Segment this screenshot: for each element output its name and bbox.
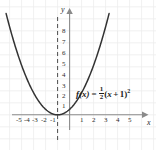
y-tick-label-6: 6 <box>62 50 66 57</box>
y-tick-label-4: 4 <box>62 72 66 79</box>
y-tick-label-2: 2 <box>62 93 66 100</box>
x-axis-label: x <box>147 119 151 127</box>
y-tick-label-8: 8 <box>62 28 66 35</box>
parabola-figure: 8 7 6 5 4 3 2 1 -5 -4 -3 -2 -1 1 2 3 4 5… <box>0 0 156 150</box>
y-axis-label: y <box>61 6 65 14</box>
equation-annotation: f(x)=12(x+1)2 <box>76 86 130 101</box>
x-tick-label-1: 1 <box>80 117 84 124</box>
grid-lines <box>0 0 156 150</box>
equation-equals: = <box>92 89 97 99</box>
equation-variable: x <box>107 89 112 99</box>
x-tick-label-3: 3 <box>104 117 108 124</box>
graph-canvas <box>0 0 156 150</box>
y-tick-label-5: 5 <box>62 61 66 68</box>
x-tick-label-minus-4: -4 <box>24 117 30 124</box>
x-tick-label-minus-2: -2 <box>41 117 47 124</box>
x-tick-label-5: 5 <box>128 117 132 124</box>
equation-lhs: f(x) <box>76 89 90 99</box>
x-tick-label-minus-5: -5 <box>16 117 22 124</box>
y-axis-arrowhead <box>66 8 72 14</box>
y-tick-label-1: 1 <box>62 103 66 110</box>
x-tick-label-4: 4 <box>116 117 120 124</box>
x-tick-label-2: 2 <box>92 117 96 124</box>
fraction-denominator: 2 <box>99 94 104 101</box>
x-tick-label-minus-3: -3 <box>32 117 38 124</box>
equation-fraction-one-half: 12 <box>99 86 104 101</box>
y-tick-label-7: 7 <box>62 39 66 46</box>
x-tick-label-minus-1: -1 <box>50 117 56 124</box>
y-tick-label-3: 3 <box>62 83 66 90</box>
equation-exponent: 2 <box>127 88 130 94</box>
equation-plus: + <box>113 89 118 99</box>
